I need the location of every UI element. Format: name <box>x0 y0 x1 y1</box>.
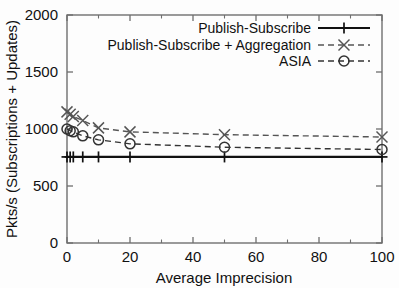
x-tick-label: 100 <box>369 248 394 265</box>
y-axis-tick-labels: 0500100015002000 <box>25 6 58 251</box>
legend-entry-0: Publish-Subscribe <box>198 20 370 36</box>
chart-legend: Publish-SubscribePublish-Subscribe + Agg… <box>107 20 370 69</box>
y-tick-label: 1500 <box>25 63 58 80</box>
y-tick-label: 500 <box>33 177 58 194</box>
y-tick-label: 0 <box>50 234 58 251</box>
series-1 <box>62 106 388 142</box>
chart-figure: 020406080100 0500100015002000 Publish-Su… <box>0 0 399 288</box>
x-tick-label: 80 <box>311 248 328 265</box>
series-0 <box>62 151 388 162</box>
x-tick-label: 0 <box>63 248 71 265</box>
x-tick-label: 20 <box>122 248 139 265</box>
x-tick-label: 60 <box>248 248 265 265</box>
legend-label: Publish-Subscribe + Aggregation <box>107 37 311 53</box>
chart-canvas: 020406080100 0500100015002000 Publish-Su… <box>0 0 399 288</box>
x-axis-tick-labels: 020406080100 <box>63 248 395 265</box>
y-tick-label: 2000 <box>25 6 58 23</box>
x-axis-title: Average Imprecision <box>156 269 292 286</box>
legend-label: Publish-Subscribe <box>198 20 311 36</box>
legend-entry-2: ASIA <box>279 53 370 69</box>
legend-label: ASIA <box>279 53 312 69</box>
y-tick-label: 1000 <box>25 120 58 137</box>
legend-entry-1: Publish-Subscribe + Aggregation <box>107 37 370 53</box>
y-axis-title: Pkts/s (Subscriptions + Updates) <box>3 20 20 238</box>
data-series-group <box>62 106 388 162</box>
series-2 <box>62 124 387 155</box>
x-tick-label: 40 <box>185 248 202 265</box>
